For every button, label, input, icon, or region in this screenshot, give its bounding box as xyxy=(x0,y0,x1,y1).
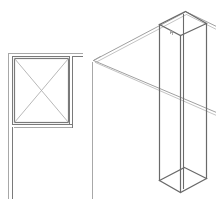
cad-drawing-canvas xyxy=(0,0,216,205)
